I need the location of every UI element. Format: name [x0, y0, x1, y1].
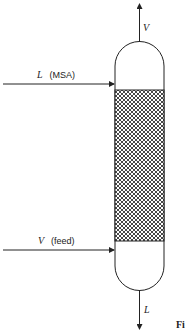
bottom-outlet-label: L [143, 304, 150, 315]
figure-caption-fragment: Fi [176, 319, 185, 330]
absorber-diagram: V L (MSA) V (feed) L Fi [0, 0, 186, 335]
feed-inlet-label: V (feed) [38, 230, 75, 247]
msa-inlet-label: L (MSA) [36, 64, 75, 81]
packing-section [115, 90, 164, 241]
top-outlet-label: V [143, 22, 151, 33]
